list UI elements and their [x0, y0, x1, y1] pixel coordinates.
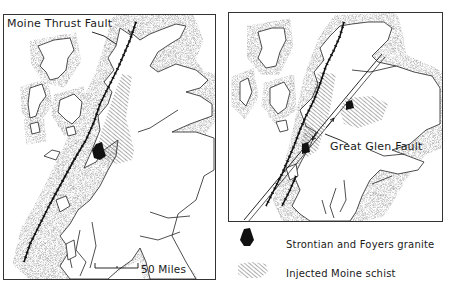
scale-bar-label: 50 Miles — [141, 263, 186, 275]
legend-granite-label: Strontian and Foyers granite — [286, 239, 434, 250]
right-map — [229, 13, 443, 223]
legend — [238, 228, 268, 278]
legend-hatched-swatch — [238, 262, 268, 278]
legend-schist-label: Injected Moine schist — [286, 268, 396, 279]
legend-granite-swatch — [240, 228, 254, 246]
moine-thrust-fault-label: Moine Thrust Fault — [7, 17, 112, 30]
left-map — [4, 15, 216, 280]
great-glen-fault-label: Great Glen Fault — [330, 140, 423, 153]
figure: Moine Thrust Fault 50 Miles Great Glen F… — [0, 0, 449, 289]
